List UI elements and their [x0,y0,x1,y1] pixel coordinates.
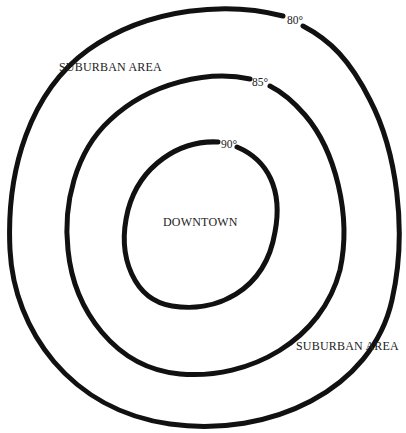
isotherm-label-90: 90° [221,138,238,150]
suburban-area-label-top: SUBURBAN AREA [59,60,162,74]
heat-island-diagram: 80° 85° 90° SUBURBAN AREA DOWNTOWN SUBUR… [0,0,406,433]
isotherm-label-80: 80° [287,14,304,26]
downtown-label: DOWNTOWN [163,215,238,229]
suburban-area-label-bottom: SUBURBAN AREA [296,339,399,353]
isotherm-label-85: 85° [252,76,269,88]
